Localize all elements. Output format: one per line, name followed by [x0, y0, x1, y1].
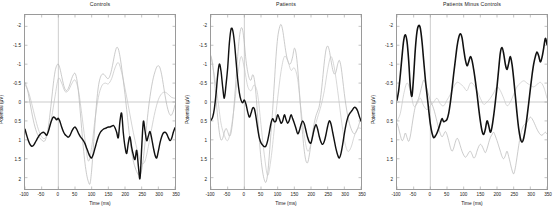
trace-canvas: [211, 15, 361, 189]
x-tick-label: -50: [224, 192, 231, 197]
x-tick-label: 50: [444, 192, 449, 197]
y-tick-label: -1: [188, 61, 207, 66]
y-tick-label: 0.5: [374, 119, 393, 124]
waveform-trace-noise-thin-b: [397, 81, 547, 121]
y-tick-label: 1: [188, 138, 207, 143]
x-tick-label: -100: [19, 192, 28, 197]
chart-panel-2: Patients-2-1.5-1-0.500.511.52-100-500501…: [186, 0, 372, 217]
y-tick-label: 1.5: [374, 157, 393, 162]
y-tick-label: -0.5: [374, 80, 393, 85]
waveform-trace-comparison-thin-a: [211, 24, 361, 182]
x-tick-label: 350: [172, 192, 180, 197]
y-tick-label: 1: [374, 138, 393, 143]
y-tick-label: 1.5: [188, 157, 207, 162]
x-tick-label: 150: [291, 192, 299, 197]
x-tick-label: 50: [72, 192, 77, 197]
x-tick-label: -50: [410, 192, 417, 197]
y-tick-label: -0.5: [188, 80, 207, 85]
x-tick-label: 50: [258, 192, 263, 197]
plot-area: [24, 14, 176, 190]
x-tick-label: 150: [477, 192, 485, 197]
panel-title: Patients Minus Controls: [396, 1, 548, 7]
x-tick-label: 300: [155, 192, 163, 197]
x-tick-label: -50: [38, 192, 45, 197]
y-tick-label: 0: [188, 100, 207, 105]
y-tick-label: -1.5: [2, 42, 21, 47]
y-tick-label: 0: [374, 100, 393, 105]
y-tick-label: 2: [188, 176, 207, 181]
x-tick-label: 250: [138, 192, 146, 197]
plot-area: [210, 14, 362, 190]
x-tick-label: 350: [358, 192, 366, 197]
panel-title: Patients: [210, 1, 362, 7]
x-axis-label: Time (ms): [461, 201, 482, 206]
x-tick-label: 350: [544, 192, 552, 197]
x-axis-label: Time (ms): [275, 201, 296, 206]
x-tick-label: 200: [493, 192, 501, 197]
x-tick-label: 200: [121, 192, 129, 197]
trace-canvas: [25, 15, 175, 189]
x-tick-label: 0: [428, 192, 431, 197]
y-axis-label: Potential (μV): [371, 95, 376, 124]
chart-panel-3: Patients Minus Controls-2-1.5-1-0.500.51…: [372, 0, 558, 217]
y-tick-label: -2: [188, 23, 207, 28]
y-tick-label: 0: [2, 100, 21, 105]
y-tick-label: 1.5: [2, 157, 21, 162]
x-tick-label: 250: [510, 192, 518, 197]
x-tick-label: -100: [391, 192, 400, 197]
x-tick-label: 0: [242, 192, 245, 197]
x-tick-label: 100: [274, 192, 282, 197]
x-tick-label: 150: [105, 192, 113, 197]
y-tick-label: -1: [2, 61, 21, 66]
figure-root: Controls-2-1.5-1-0.500.511.52-100-500501…: [0, 0, 559, 217]
trace-canvas: [397, 15, 547, 189]
plot-area: [396, 14, 548, 190]
x-axis-label: Time (ms): [89, 201, 110, 206]
y-axis-label: Potential (μV): [0, 95, 4, 124]
waveform-trace-comparison-thin-a: [25, 47, 175, 184]
y-tick-label: 2: [374, 176, 393, 181]
x-tick-label: 100: [88, 192, 96, 197]
x-tick-label: 0: [56, 192, 59, 197]
y-tick-label: -1: [374, 61, 393, 66]
y-tick-label: -0.5: [2, 80, 21, 85]
y-tick-label: -2: [2, 23, 21, 28]
panel-title: Controls: [24, 1, 176, 7]
waveform-trace-grand-average-thick: [211, 28, 361, 158]
x-tick-label: 200: [307, 192, 315, 197]
y-tick-label: 0.5: [2, 119, 21, 124]
y-tick-label: -2: [374, 23, 393, 28]
y-tick-label: 0.5: [188, 119, 207, 124]
y-axis-label: Potential (μV): [185, 95, 190, 124]
waveform-trace-noise-thin-a: [397, 80, 547, 174]
y-tick-label: 1: [2, 138, 21, 143]
x-tick-label: 250: [324, 192, 332, 197]
x-tick-label: 300: [341, 192, 349, 197]
y-tick-label: -1.5: [188, 42, 207, 47]
x-tick-label: -100: [205, 192, 214, 197]
x-tick-label: 300: [527, 192, 535, 197]
y-tick-label: 2: [2, 176, 21, 181]
y-tick-label: -1.5: [374, 42, 393, 47]
chart-panel-1: Controls-2-1.5-1-0.500.511.52-100-500501…: [0, 0, 186, 217]
x-tick-label: 100: [460, 192, 468, 197]
